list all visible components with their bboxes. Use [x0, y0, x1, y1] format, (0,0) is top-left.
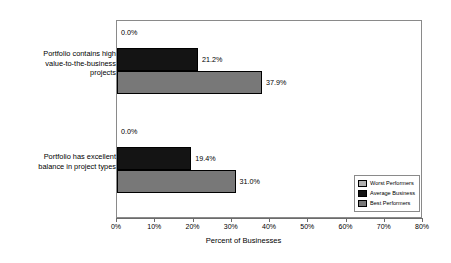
x-tick-label-5: 50%	[300, 223, 314, 230]
x-tick-label-3: 30%	[224, 223, 238, 230]
legend-swatch-worst-performers	[358, 180, 367, 187]
legend-label-average-business: Average Business	[370, 190, 415, 197]
bar-worst-performers-1[interactable]	[117, 170, 236, 193]
x-tick-1	[154, 218, 155, 222]
bar-value-average-0: 21.2%	[202, 55, 222, 64]
category-label-0-line-0: Portfolio contains high	[6, 49, 116, 59]
bar-value-best-1: 0.0%	[121, 127, 137, 136]
x-tick-6	[346, 218, 347, 222]
bar-value-average-1: 19.4%	[195, 154, 215, 163]
bar-average-business-1[interactable]	[117, 147, 191, 170]
category-label-1-line-0: Portfolio has excellent	[6, 152, 116, 162]
x-tick-label-2: 20%	[185, 223, 199, 230]
x-tick-label-0: 0%	[111, 223, 121, 230]
x-axis: 0%10%20%30%40%50%60%70%80%	[116, 218, 422, 219]
legend-item-worst-performers[interactable]: Worst Performers	[358, 179, 415, 188]
x-tick-label-7: 70%	[377, 223, 391, 230]
x-tick-label-4: 40%	[262, 223, 276, 230]
legend-swatch-average-business	[358, 190, 367, 197]
x-tick-7	[384, 218, 385, 222]
x-tick-label-6: 60%	[338, 223, 352, 230]
legend: Worst Performers Average Business Best P…	[354, 175, 420, 212]
bar-value-best-0: 0.0%	[121, 28, 137, 37]
category-label-0: Portfolio contains high value-to-the-bus…	[6, 49, 116, 78]
bar-value-worst-1: 31.0%	[240, 177, 260, 186]
x-tick-0	[116, 218, 117, 222]
category-label-0-line-2: projects	[6, 68, 116, 78]
bar-worst-performers-0[interactable]	[117, 71, 262, 94]
x-tick-label-8: 80%	[415, 223, 429, 230]
legend-item-best-performers[interactable]: Best Performers	[358, 199, 415, 208]
legend-label-worst-performers: Worst Performers	[370, 180, 414, 187]
legend-label-best-performers: Best Performers	[370, 200, 410, 207]
category-label-1-line-1: balance in project types	[6, 162, 116, 172]
x-tick-8	[422, 218, 423, 222]
x-axis-title-text: Percent of Businesses	[206, 236, 282, 245]
bar-average-business-0[interactable]	[117, 48, 198, 71]
x-tick-2	[193, 218, 194, 222]
legend-item-average-business[interactable]: Average Business	[358, 189, 415, 198]
legend-swatch-best-performers	[358, 200, 367, 207]
category-label-0-line-1: value-to-the-business	[6, 59, 116, 69]
category-label-1: Portfolio has excellent balance in proje…	[6, 152, 116, 171]
x-tick-5	[307, 218, 308, 222]
x-axis-title: Percent of Businesses	[0, 236, 451, 245]
x-tick-label-1: 10%	[147, 223, 161, 230]
x-tick-3	[231, 218, 232, 222]
chart-root: Portfolio contains high value-to-the-bus…	[0, 0, 451, 263]
bar-value-worst-0: 37.9%	[266, 78, 286, 87]
x-tick-4	[269, 218, 270, 222]
